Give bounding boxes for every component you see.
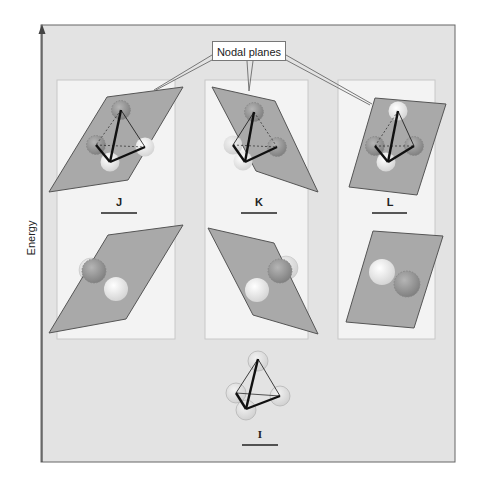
energy-diagram: Energy Nodal planes J K L I	[0, 0, 480, 486]
diagram-canvas	[0, 0, 480, 486]
label-l: L	[370, 196, 410, 208]
label-i: I	[240, 428, 280, 440]
label-k: K	[239, 196, 279, 208]
label-j: J	[99, 196, 139, 208]
nodal-planes-callout: Nodal planes	[212, 41, 286, 61]
y-axis-label: Energy	[25, 213, 37, 263]
